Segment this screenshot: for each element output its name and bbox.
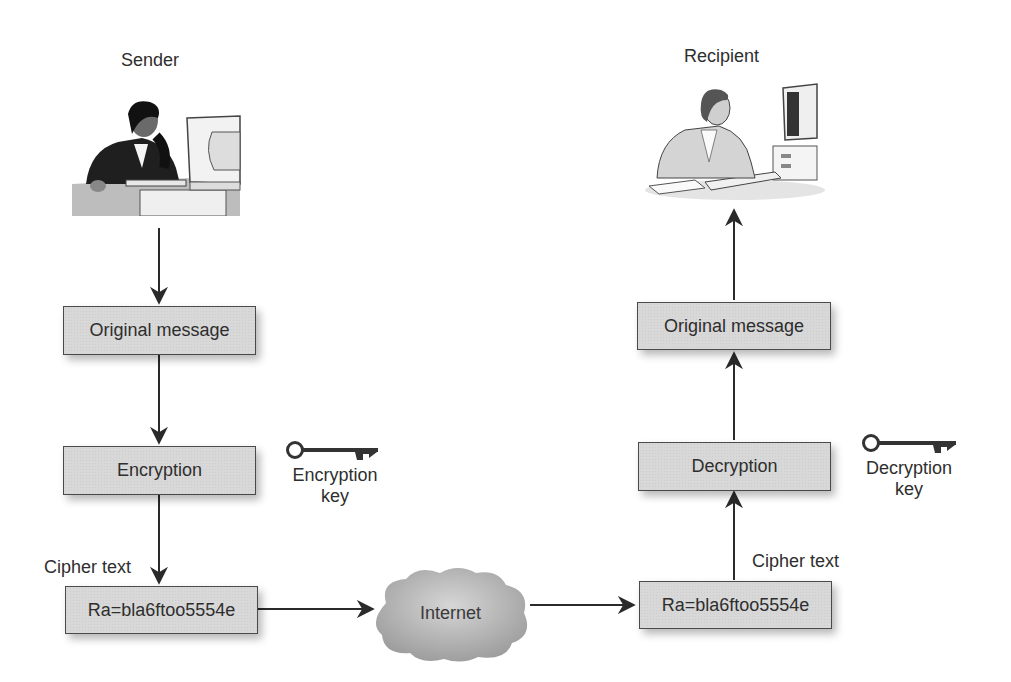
cipher-text-box-recipient: Ra=bla6ftoo5554e — [639, 581, 832, 629]
decryption-box: Decryption — [638, 442, 831, 491]
decryption-key-label-line1: Decryption — [857, 458, 961, 479]
decryption-key-icon — [861, 433, 961, 455]
original-message-label: Original message — [89, 320, 229, 341]
cipher-text-label-sender: Cipher text — [44, 557, 131, 578]
decryption-key-label: Decryption key — [857, 458, 961, 500]
encryption-key-icon — [285, 440, 383, 462]
encryption-key-label: Encryption key — [283, 465, 387, 507]
recipient-illustration-icon — [645, 82, 825, 200]
internet-label: Internet — [420, 603, 481, 624]
sender-illustration-icon — [72, 98, 244, 216]
encryption-key-label-line2: key — [283, 486, 387, 507]
encryption-box: Encryption — [63, 446, 256, 495]
encryption-label: Encryption — [117, 460, 202, 481]
cipher-text-value: Ra=bla6ftoo5554e — [88, 600, 236, 621]
cipher-text-value-recipient: Ra=bla6ftoo5554e — [662, 595, 810, 616]
decryption-key-label-line2: key — [857, 479, 961, 500]
original-message-box-recipient: Original message — [637, 302, 831, 350]
cipher-text-label-recipient: Cipher text — [752, 551, 839, 572]
recipient-title: Recipient — [684, 46, 759, 67]
cipher-text-box-sender: Ra=bla6ftoo5554e — [65, 586, 258, 634]
encryption-key-label-line1: Encryption — [283, 465, 387, 486]
decryption-label: Decryption — [691, 456, 777, 477]
original-message-label-recipient: Original message — [664, 316, 804, 337]
sender-title: Sender — [121, 50, 179, 71]
original-message-box-sender: Original message — [63, 306, 256, 355]
